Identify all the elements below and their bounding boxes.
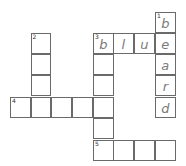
crossword-grid: 1beard3blu245 [0,0,186,166]
cell-letter: b [156,16,175,32]
crossword-cell[interactable] [51,97,72,118]
cell-letter: a [156,58,175,74]
clue-number: 2 [33,33,37,41]
crossword-cell[interactable]: 3b [93,33,114,54]
clue-number: 5 [95,140,99,148]
crossword-cell[interactable] [31,97,52,118]
crossword-cell[interactable]: 2 [31,33,52,54]
cell-letter: l [114,37,133,53]
crossword-cell[interactable] [155,140,176,161]
crossword-cell[interactable]: a [155,54,176,75]
crossword-cell[interactable] [93,118,114,139]
cell-letter: b [94,37,113,53]
crossword-cell[interactable] [93,97,114,118]
crossword-cell[interactable]: u [134,33,155,54]
cell-letter: r [156,79,175,95]
crossword-cell[interactable] [31,75,52,96]
cell-letter: u [135,37,154,53]
crossword-cell[interactable]: 4 [10,97,31,118]
cell-letter: d [156,101,175,117]
crossword-cell[interactable] [93,75,114,96]
crossword-cell[interactable]: l [113,33,134,54]
crossword-cell[interactable] [113,140,134,161]
crossword-cell[interactable]: 5 [93,140,114,161]
cell-letter: e [156,37,175,53]
clue-number: 4 [12,97,16,105]
crossword-cell[interactable] [134,140,155,161]
crossword-cell[interactable]: r [155,75,176,96]
crossword-cell[interactable] [31,54,52,75]
crossword-cell[interactable]: d [155,97,176,118]
crossword-cell[interactable] [72,97,93,118]
crossword-cell[interactable]: 1b [155,12,176,33]
crossword-cell[interactable]: e [155,33,176,54]
crossword-cell[interactable] [93,54,114,75]
